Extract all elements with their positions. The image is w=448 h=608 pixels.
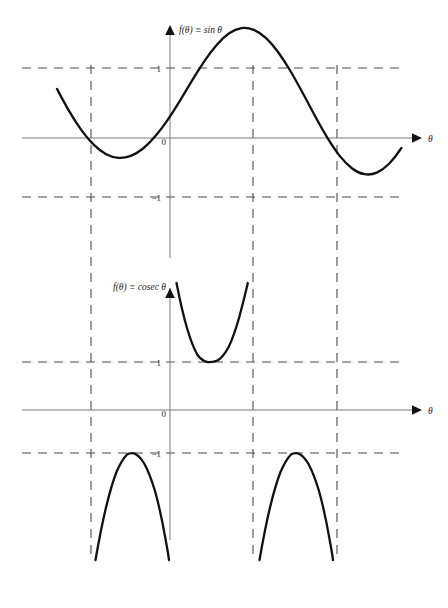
sine-ytick-minus1: −1 <box>151 193 161 203</box>
cosec-branch-negative-left <box>96 453 170 560</box>
cosec-y-axis-arrowhead <box>165 288 175 298</box>
sine-curve <box>57 28 401 175</box>
cosec-ytick-minus1: −1 <box>151 449 161 459</box>
cosec-ytick-zero: 0 <box>162 409 167 419</box>
sine-x-axis-label: θ <box>428 134 433 144</box>
sine-x-axis-arrowhead <box>412 133 422 143</box>
cosec-branch-negative-right <box>260 453 334 560</box>
sine-y-axis-arrowhead <box>165 25 175 35</box>
sine-cosec-figure: 1 0 −1 θ f(θ) ≡ sin θ 1 0 −1 <box>0 0 448 608</box>
cosec-panel: 1 0 −1 θ f(θ) ≡ cosec θ <box>22 282 433 560</box>
cosec-ytick-plus1: 1 <box>157 358 162 368</box>
cosec-x-axis-label: θ <box>428 406 433 416</box>
sine-function-label: f(θ) ≡ sin θ <box>179 25 222 36</box>
figure-container: 1 0 −1 θ f(θ) ≡ sin θ 1 0 −1 <box>0 0 448 608</box>
cosec-x-axis-arrowhead <box>412 405 422 415</box>
sine-ytick-zero: 0 <box>162 137 167 147</box>
cosec-function-label: f(θ) ≡ cosec θ <box>113 282 166 293</box>
sine-panel: 1 0 −1 θ f(θ) ≡ sin θ <box>22 25 433 258</box>
dashed-guides <box>22 65 400 560</box>
cosec-branch-positive <box>177 283 248 362</box>
sine-ytick-plus1: 1 <box>157 64 162 74</box>
